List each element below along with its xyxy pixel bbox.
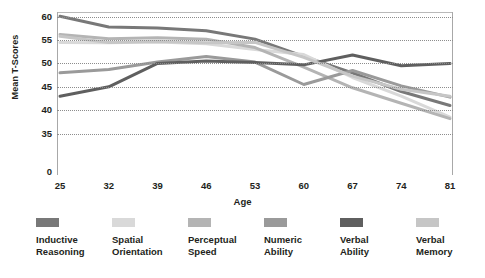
legend-item[interactable]: Spatial Orientation (112, 218, 190, 257)
legend-swatch-icon (340, 218, 363, 227)
x-tick-label: 25 (55, 180, 66, 191)
y-axis-line-left (57, 12, 58, 175)
legend-label: Verbal Memory (416, 234, 485, 257)
gridline (57, 40, 453, 41)
series-line-1 (60, 42, 450, 117)
y-tick-label: 35 (30, 129, 52, 139)
legend-label: Spatial Orientation (112, 234, 190, 257)
plot-top-border (57, 12, 453, 13)
y-tick-label: 45 (30, 82, 52, 92)
series-lines (57, 12, 453, 175)
y-axis-tick-labels: 6055504540350 (22, 0, 52, 175)
legend-label: Numeric Ability (264, 234, 342, 257)
chart-legend: Inductive ReasoningSpatial OrientationPe… (0, 218, 485, 278)
x-tick-label: 32 (103, 180, 114, 191)
y-tick-label: 60 (30, 12, 52, 22)
legend-swatch-icon (36, 218, 59, 227)
y-axis-label: Mean T-Scores (10, 22, 20, 112)
x-axis-tick-labels: 253239465360677481 (57, 180, 453, 194)
legend-label: Perceptual Speed (188, 234, 266, 257)
legend-item[interactable]: Numeric Ability (264, 218, 342, 257)
gridline (57, 63, 453, 64)
series-line-4 (60, 55, 450, 96)
gridline (57, 87, 453, 88)
legend-item[interactable]: Inductive Reasoning (36, 218, 114, 257)
y-axis-line-right (452, 12, 453, 175)
legend-item[interactable]: Perceptual Speed (188, 218, 266, 257)
legend-item[interactable]: Verbal Ability (340, 218, 418, 257)
x-tick-label: 74 (396, 180, 407, 191)
x-tick-label: 60 (298, 180, 309, 191)
legend-swatch-icon (264, 218, 287, 227)
legend-label: Inductive Reasoning (36, 234, 114, 257)
x-tick-label: 46 (201, 180, 212, 191)
x-tick-label: 81 (445, 180, 456, 191)
legend-label: Verbal Ability (340, 234, 418, 257)
x-tick-label: 53 (250, 180, 261, 191)
line-chart: Mean T-Scores 6055504540350 253239465360… (0, 0, 485, 215)
series-line-2 (60, 34, 450, 118)
plot-area (57, 12, 453, 175)
legend-swatch-icon (416, 218, 439, 227)
gridline (57, 110, 453, 111)
x-tick-label: 67 (347, 180, 358, 191)
y-tick-label: 55 (30, 35, 52, 45)
x-tick-label: 39 (152, 180, 163, 191)
x-axis-label: Age (0, 196, 485, 207)
y-tick-label: 50 (30, 58, 52, 68)
legend-swatch-icon (112, 218, 135, 227)
y-tick-label: 0 (30, 167, 52, 177)
y-tick-label: 40 (30, 105, 52, 115)
gridline (57, 134, 453, 135)
chart-page: Mean T-Scores 6055504540350 253239465360… (0, 0, 485, 278)
legend-swatch-icon (188, 218, 211, 227)
gridline (57, 17, 453, 18)
legend-item[interactable]: Verbal Memory (416, 218, 485, 257)
